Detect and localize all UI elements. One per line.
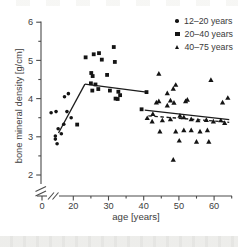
data-point-square — [84, 55, 88, 59]
data-point-triangle — [197, 129, 202, 134]
series-square — [75, 45, 148, 126]
data-point-triangle — [220, 100, 225, 105]
legend: 12–20 years 20–40 years 40–75 years — [175, 16, 233, 52]
data-point-square — [100, 58, 104, 62]
data-point-triangle — [160, 118, 165, 123]
y-tick-label: 3 — [28, 132, 33, 142]
data-point-triangle — [165, 103, 170, 108]
legend-item-label: 12–20 years — [184, 16, 232, 26]
data-point-triangle — [168, 98, 173, 103]
trend-lines — [59, 84, 230, 133]
legend-item-label: 40–75 years — [184, 42, 232, 52]
data-point-triangle — [165, 91, 170, 96]
data-point-square — [112, 45, 116, 49]
data-point-circle — [69, 116, 73, 120]
data-point-circle — [63, 95, 67, 99]
data-point-circle — [56, 127, 60, 131]
data-point-triangle — [225, 95, 230, 100]
data-point-triangle — [194, 139, 199, 144]
data-point-triangle — [173, 129, 178, 134]
data-point-triangle — [177, 138, 182, 143]
data-point-square — [96, 87, 100, 91]
data-point-triangle — [150, 119, 155, 124]
data-point-triangle — [157, 129, 162, 134]
data-point-circle — [65, 110, 69, 114]
legend-item: 20–40 years — [175, 29, 233, 39]
x-tick-label: 20 — [68, 201, 78, 211]
data-point-triangle — [205, 128, 210, 133]
data-point-square — [92, 52, 96, 56]
data-point-square — [118, 93, 122, 97]
data-point-square — [75, 123, 79, 127]
data-point-triangle — [173, 82, 178, 87]
data-point-square — [91, 74, 95, 78]
data-point-circle — [60, 132, 64, 136]
y-axis-label: bone mineral density [g/cm] — [13, 22, 24, 190]
data-point-circle — [62, 122, 66, 126]
x-tick-label: 30 — [103, 201, 113, 211]
data-point-triangle — [206, 139, 211, 144]
x-tick-label: 0 — [39, 201, 44, 211]
data-point-triangle — [222, 120, 227, 125]
data-point-triangle — [181, 128, 186, 133]
data-point-circle — [49, 111, 53, 115]
triangle-marker-icon — [175, 45, 179, 49]
data-point-square — [89, 81, 93, 85]
data-point-square — [97, 51, 101, 55]
y-tick-label: 5 — [28, 56, 33, 66]
x-tick-label: 40 — [139, 201, 149, 211]
data-point-square — [116, 90, 120, 94]
square-marker-icon — [175, 32, 179, 36]
data-point-circle — [54, 110, 58, 114]
data-point-circle — [54, 137, 58, 141]
data-point-triangle — [150, 111, 155, 116]
data-point-square — [145, 90, 149, 94]
data-point-square — [140, 107, 144, 111]
y-tick-label: 6 — [28, 17, 33, 27]
data-point-square — [113, 60, 117, 64]
data-point-triangle — [171, 157, 176, 162]
data-point-square — [116, 97, 120, 101]
data-point-triangle — [204, 117, 209, 122]
circle-marker-icon — [175, 19, 179, 23]
data-point-square — [90, 89, 94, 93]
data-point-square — [105, 73, 109, 77]
figure: 0203040506023456 bone mineral density [g… — [0, 0, 238, 247]
data-point-square — [108, 89, 112, 93]
legend-item: 40–75 years — [175, 42, 233, 52]
series-circle — [49, 92, 73, 146]
legend-item-label: 20–40 years — [185, 29, 233, 39]
solid-trend-line — [145, 110, 229, 120]
data-point-circle — [67, 92, 71, 96]
y-tick-label: 2 — [28, 170, 33, 180]
data-point-triangle — [189, 128, 194, 133]
data-point-square — [94, 83, 98, 87]
x-tick-label: 50 — [174, 201, 184, 211]
x-axis-label: age [years] — [36, 211, 236, 222]
y-tick-label: 4 — [28, 94, 33, 104]
legend-item: 12–20 years — [175, 16, 233, 26]
solid-trend-line — [59, 84, 85, 133]
x-tick-label: 60 — [209, 201, 219, 211]
data-point-triangle — [208, 77, 213, 82]
data-point-circle — [55, 142, 59, 146]
data-point-triangle — [156, 71, 161, 76]
